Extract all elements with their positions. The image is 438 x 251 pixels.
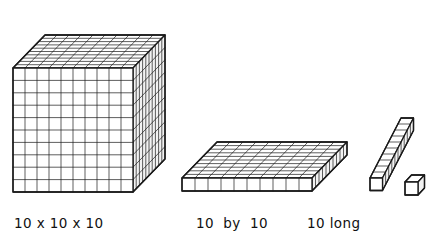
- front-face: [370, 178, 383, 191]
- label-hundred-flat: 10 by 10: [196, 215, 268, 231]
- figure-canvas: 10 x 10 x 10 10 by 10 10 long: [0, 0, 438, 251]
- base-ten-blocks-illustration: [0, 0, 438, 251]
- thousand-cube: [13, 35, 165, 192]
- label-thousand-cube: 10 x 10 x 10: [14, 215, 103, 231]
- front-face: [405, 182, 418, 195]
- unit-cube: [405, 175, 425, 195]
- label-ten-rod: 10 long: [307, 215, 360, 231]
